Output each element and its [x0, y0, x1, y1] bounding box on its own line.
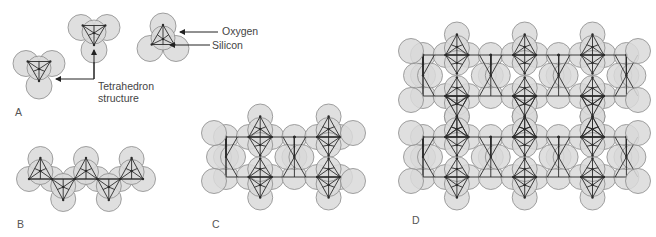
atom-dot — [259, 128, 261, 130]
atom-dot — [603, 136, 605, 138]
atom-dot — [327, 128, 329, 130]
atom-dot — [38, 80, 40, 82]
atom-dot — [456, 154, 458, 156]
atom-dot — [456, 157, 458, 159]
atom-dot — [259, 154, 261, 156]
atom-dot — [490, 156, 492, 158]
atom-dot — [456, 196, 458, 198]
atom-dot — [73, 178, 75, 180]
atom-dot — [327, 157, 329, 159]
atom-dot — [591, 154, 593, 156]
atom-dot — [591, 116, 593, 118]
atom-dot — [85, 157, 87, 159]
tetrahedron-label-line2: structure — [98, 92, 139, 104]
atom-dot — [591, 103, 593, 105]
oxygen-atom — [553, 63, 578, 88]
atom-dot — [524, 184, 526, 186]
oxygen-atom — [485, 145, 510, 170]
oxygen-atom — [626, 169, 651, 194]
atom-dot — [524, 72, 526, 74]
atom-dot — [104, 24, 106, 26]
panel-label-a: A — [15, 106, 22, 118]
atom-dot — [27, 60, 29, 62]
atom-dot — [259, 115, 261, 117]
atom-dot — [108, 186, 110, 188]
atom-dot — [248, 176, 250, 178]
atom-dot — [557, 74, 559, 76]
oxygen-atom — [485, 63, 510, 88]
atom-dot — [49, 60, 51, 62]
atom-dot — [625, 74, 627, 76]
atom-dot — [293, 136, 295, 138]
atom-dot — [591, 33, 593, 35]
atom-dot — [580, 136, 582, 138]
panel-c-double-chain — [202, 104, 366, 210]
atom-dot — [456, 128, 458, 130]
atom-dot — [316, 136, 318, 138]
atom-dot — [524, 87, 526, 89]
oxygen-atom — [399, 88, 424, 113]
atom-dot — [162, 24, 164, 26]
atom-dot — [524, 103, 526, 105]
atom-dot — [557, 156, 559, 158]
silicon-label: Silicon — [212, 39, 243, 51]
atom-dot — [456, 168, 458, 170]
atom-dot — [467, 176, 469, 178]
atom-dot — [524, 168, 526, 170]
atom-dot — [591, 168, 593, 170]
atom-dot — [327, 184, 329, 186]
atom-dot — [456, 103, 458, 105]
panel-label-d: D — [412, 214, 420, 226]
atom-dot — [524, 157, 526, 159]
atom-dot — [535, 54, 537, 56]
atom-dot — [591, 184, 593, 186]
oxygen-atom — [399, 169, 424, 194]
oxygen-atom — [341, 169, 366, 194]
atom-dot — [444, 95, 446, 97]
oxygen-atom — [626, 121, 651, 146]
atom-dot — [162, 38, 164, 40]
atom-dot — [259, 168, 261, 170]
atom-dot — [39, 157, 41, 159]
atom-dot — [456, 46, 458, 48]
panel-d-sheet — [399, 22, 651, 210]
isolated-tetrahedron — [13, 51, 65, 100]
atom-dot — [591, 76, 593, 78]
atom-dot — [467, 136, 469, 138]
atom-dot — [591, 144, 593, 146]
atom-dot — [512, 176, 514, 178]
oxygen-atom — [202, 121, 227, 146]
atom-dot — [130, 157, 132, 159]
tetrahedron-label-line1: Tetrahedron — [98, 80, 154, 92]
atom-dot — [456, 184, 458, 186]
atom-dot — [62, 199, 64, 201]
atom-dot — [119, 178, 121, 180]
oxygen-atom — [221, 145, 246, 170]
atom-dot — [85, 170, 87, 172]
atom-dot — [512, 136, 514, 138]
atom-dot — [93, 44, 95, 46]
oxygen-atom — [202, 169, 227, 194]
atom-dot — [535, 95, 537, 97]
oxygen-atom — [289, 145, 314, 170]
panel-label-b: B — [17, 218, 24, 230]
atom-dot — [625, 156, 627, 158]
oxygen-atom — [626, 88, 651, 113]
atom-dot — [524, 196, 526, 198]
atom-dot — [512, 54, 514, 56]
atom-dot — [259, 196, 261, 198]
atom-dot — [524, 116, 526, 118]
atom-dot — [270, 176, 272, 178]
atom-dot — [130, 170, 132, 172]
atom-dot — [270, 136, 272, 138]
atom-dot — [444, 54, 446, 56]
atom-dot — [327, 168, 329, 170]
atom-dot — [456, 76, 458, 78]
atom-dot — [93, 32, 95, 34]
atom-dot — [456, 87, 458, 89]
atom-dot — [591, 46, 593, 48]
atom-dot — [96, 178, 98, 180]
atom-dot — [259, 157, 261, 159]
atom-dot — [422, 156, 424, 158]
panel-label-c: C — [212, 218, 220, 230]
